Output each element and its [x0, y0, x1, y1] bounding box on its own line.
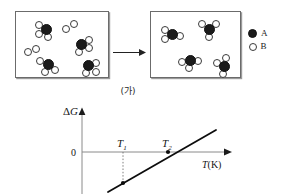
chemistry-figure: (가) A B: [0, 0, 287, 194]
legend-item-a: A: [248, 27, 268, 40]
atom-b: [62, 25, 70, 33]
legend: A B: [248, 27, 268, 53]
atom-a: [204, 24, 215, 35]
atom-a: [41, 24, 52, 35]
delta-g-vs-temperature-chart: ΔG 0 T1 T2 T(K): [60, 104, 240, 194]
atom-a: [167, 29, 178, 40]
atom-a: [219, 61, 230, 72]
origin-label: 0: [71, 147, 76, 158]
y-axis-label: ΔG: [63, 105, 78, 117]
stage-caption: (가): [0, 84, 256, 97]
tick-label-t2: T2: [162, 137, 172, 152]
tick-label-t1: T1: [117, 137, 127, 152]
filled-circle-icon: [248, 29, 257, 38]
after-reaction-box: [150, 11, 241, 78]
x-axis-label: T(K): [202, 159, 221, 171]
open-circle-icon: [249, 43, 257, 51]
before-reaction-box: [15, 11, 109, 78]
y-axis: [79, 108, 86, 195]
atom-a: [185, 55, 196, 66]
x-axis: [82, 149, 232, 156]
legend-item-b: B: [248, 40, 268, 53]
atom-a: [76, 39, 87, 50]
data-point-t1: [121, 181, 125, 185]
right-arrow-icon: [113, 43, 146, 52]
legend-label-a: A: [261, 29, 268, 38]
atom-b: [70, 20, 78, 28]
atom-a: [83, 60, 94, 71]
atom-b: [92, 68, 100, 76]
legend-label-b: B: [261, 42, 267, 51]
atom-b: [32, 45, 40, 53]
atom-b: [24, 48, 32, 56]
atom-a: [43, 59, 54, 70]
